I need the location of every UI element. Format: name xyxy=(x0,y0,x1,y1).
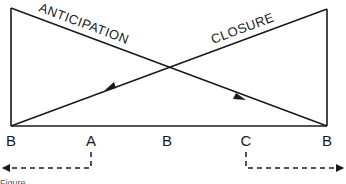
node-label-c: C xyxy=(241,132,252,149)
closure-label: CLOSURE xyxy=(209,10,276,47)
diagram-canvas: ANTICIPATION CLOSURE B A B C B Figure xyxy=(0,0,346,184)
dashed-arrow-right xyxy=(246,152,343,168)
node-label-b-right: B xyxy=(322,132,332,149)
node-label-a: A xyxy=(86,132,96,149)
node-label-b-left: B xyxy=(6,132,16,149)
dashed-arrow-left xyxy=(3,152,91,168)
node-label-b-middle: B xyxy=(162,132,172,149)
figure-caption: Figure xyxy=(0,178,26,184)
